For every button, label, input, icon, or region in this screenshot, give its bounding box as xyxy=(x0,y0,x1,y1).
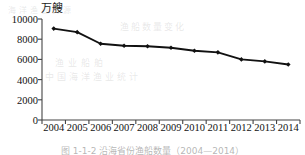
x-tick-label: 2011 xyxy=(208,122,229,133)
data-point-marker xyxy=(122,43,127,48)
x-tick-label: 2006 xyxy=(90,122,111,133)
data-point-marker xyxy=(216,50,221,55)
y-tick-label: 0 xyxy=(33,115,38,126)
y-axis-tick-marks xyxy=(38,19,42,120)
data-point-marker xyxy=(286,62,291,67)
y-tick-label: 8000 xyxy=(17,34,38,45)
y-tick-label: 10000 xyxy=(12,14,38,25)
data-point-marker xyxy=(192,49,197,54)
data-point-marker xyxy=(51,26,56,31)
x-tick-label: 2004 xyxy=(43,122,64,133)
x-tick-label: 2005 xyxy=(67,122,88,133)
data-point-marker xyxy=(145,44,150,49)
data-point-marker xyxy=(169,45,174,50)
y-tick-label: 4000 xyxy=(17,74,38,85)
data-point-marker xyxy=(239,57,244,62)
x-tick-label: 2012 xyxy=(231,122,252,133)
x-tick-label: 2014 xyxy=(278,122,299,133)
figure-container: 海洋渔业资源 渔船数量变化 渔业船舶 中国海洋渔业统计 万艘 020004000… xyxy=(0,0,305,155)
x-tick-label: 2013 xyxy=(254,122,275,133)
y-axis-tick-labels: 0200040006000800010000 xyxy=(0,0,38,155)
y-tick-label: 6000 xyxy=(17,54,38,65)
x-tick-label: 2007 xyxy=(114,122,135,133)
data-point-marker xyxy=(263,59,268,64)
figure-caption: 图 1-1-2 沿海省份渔船数量（2004—2014） xyxy=(0,144,305,155)
x-tick-label: 2008 xyxy=(137,122,158,133)
y-tick-label: 2000 xyxy=(17,94,38,105)
x-tick-label: 2010 xyxy=(184,122,205,133)
x-tick-label: 2009 xyxy=(161,122,182,133)
